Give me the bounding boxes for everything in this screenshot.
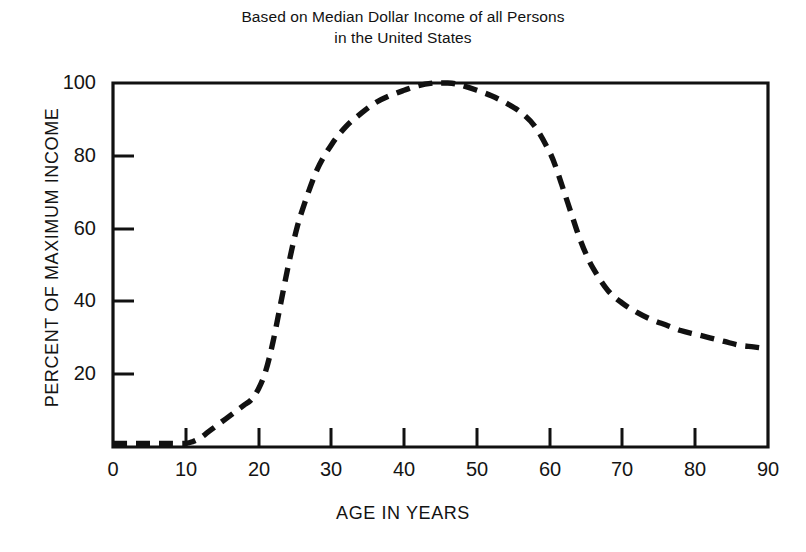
plot-frame bbox=[113, 83, 768, 447]
x-tick-label-70: 70 bbox=[592, 458, 652, 481]
income-curve bbox=[113, 83, 768, 444]
x-tick-label-90: 90 bbox=[738, 458, 798, 481]
y-axis-ticks bbox=[113, 156, 134, 374]
y-tick-label-100: 100 bbox=[40, 71, 96, 94]
x-tick-label-50: 50 bbox=[447, 458, 507, 481]
x-tick-label-20: 20 bbox=[229, 458, 289, 481]
x-tick-label-60: 60 bbox=[520, 458, 580, 481]
x-tick-label-80: 80 bbox=[665, 458, 725, 481]
axis-origin-label-0: 0 bbox=[83, 458, 143, 481]
x-tick-label-30: 30 bbox=[301, 458, 361, 481]
x-axis-ticks bbox=[186, 428, 695, 447]
x-axis-title: AGE IN YEARS bbox=[0, 503, 806, 524]
income-by-age-chart-figure: Based on Median Dollar Income of all Per… bbox=[0, 0, 806, 552]
x-tick-label-10: 10 bbox=[156, 458, 216, 481]
y-axis-title: PERCENT OF MAXIMUM INCOME bbox=[42, 93, 63, 423]
x-tick-label-40: 40 bbox=[374, 458, 434, 481]
